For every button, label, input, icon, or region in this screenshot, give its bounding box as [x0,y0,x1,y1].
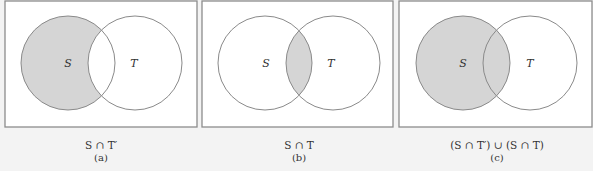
caption-sublabel-b: (b) [292,152,306,163]
venn-diagram-figure: S T S ∩ T′ (a) S T S ∩ T (b) S T (S ∩ T′… [0,0,593,171]
caption-sublabel-c: (c) [490,152,504,163]
panel-c: S T (S ∩ T′) ∪ (S ∩ T) (c) [399,1,592,163]
set-s-label: S [262,57,270,70]
caption-expression-c: (S ∩ T′) ∪ (S ∩ T) [450,139,544,151]
caption-expression-b: S ∩ T [284,139,314,151]
set-s-label: S [459,57,467,70]
panel-b: S T S ∩ T (b) [202,1,393,163]
caption-sublabel-a: (a) [94,152,108,163]
panel-a: S T S ∩ T′ (a) [5,1,197,163]
set-s-label: S [64,57,72,70]
caption-expression-a: S ∩ T′ [85,139,118,151]
